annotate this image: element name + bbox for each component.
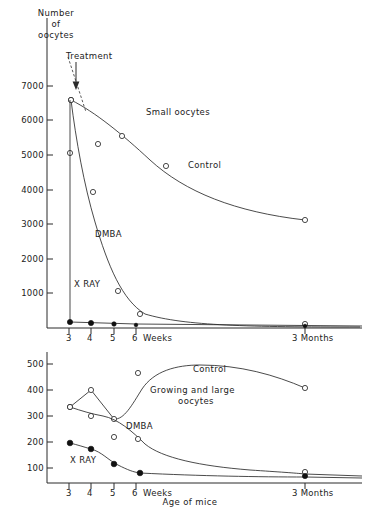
- oocyte-count-figure: Number of oocytes Treatment Small oocyte…: [0, 0, 367, 509]
- lower-axes: [47, 352, 362, 489]
- lower-series-xray: [67, 440, 362, 478]
- upper-axes: [47, 18, 362, 334]
- figure-canvas: [0, 0, 367, 509]
- upper-series-xray: [67, 100, 362, 328]
- upper-series-control: [68, 97, 307, 222]
- treatment-arrow-icon: [68, 57, 86, 112]
- lower-series-control: [67, 365, 307, 422]
- upper-series-dmba: [67, 97, 360, 327]
